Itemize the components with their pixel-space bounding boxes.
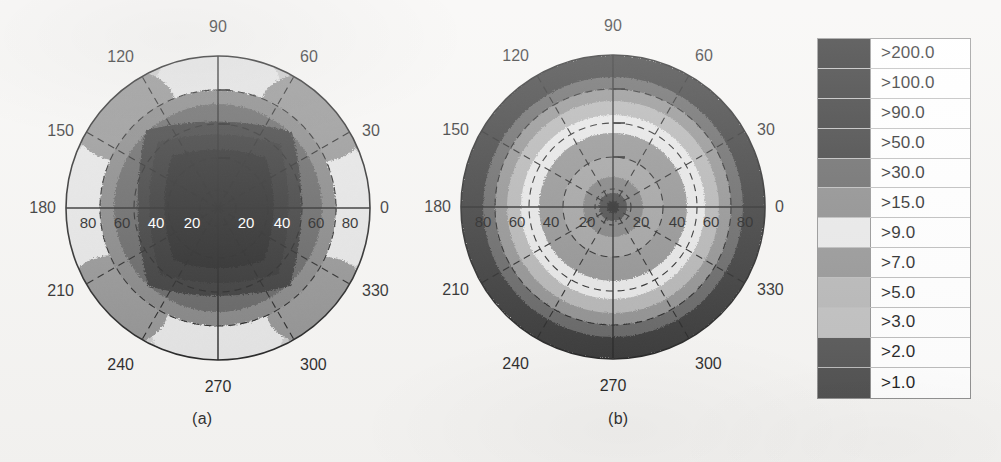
legend-row: >200.0 bbox=[818, 39, 970, 69]
legend-color-swatch bbox=[818, 338, 871, 367]
polar-plot-b: 0 30 60 90 120 150 180 210 240 270 300 3… bbox=[400, 0, 836, 420]
legend-label: >3.0 bbox=[871, 308, 970, 337]
azimuth-label-120: 120 bbox=[502, 47, 529, 64]
legend-label: >1.0 bbox=[871, 368, 970, 398]
radial-label-b-4: 20 bbox=[579, 213, 596, 230]
azimuth-label-210: 210 bbox=[442, 281, 469, 298]
color-legend: >200.0>100.0>90.0>50.0>30.0>15.0>9.0>7.0… bbox=[817, 38, 971, 399]
azimuth-label-300: 300 bbox=[300, 356, 327, 373]
azimuth-label-180: 180 bbox=[29, 199, 56, 216]
legend-color-swatch bbox=[818, 69, 871, 98]
legend-color-swatch bbox=[818, 308, 871, 337]
radial-label-a-1: 80 bbox=[80, 214, 97, 231]
legend-row: >100.0 bbox=[818, 69, 970, 99]
legend-label: >2.0 bbox=[871, 338, 970, 367]
legend-color-swatch bbox=[818, 39, 871, 68]
legend-color-swatch bbox=[818, 218, 871, 247]
legend-row: >7.0 bbox=[818, 248, 970, 278]
legend-color-swatch bbox=[818, 129, 871, 158]
radial-label-a-5: 20 bbox=[238, 214, 255, 231]
legend-row: >90.0 bbox=[818, 99, 970, 129]
legend-label: >15.0 bbox=[871, 188, 970, 217]
azimuth-label-90: 90 bbox=[604, 17, 622, 34]
azimuth-label-240: 240 bbox=[107, 356, 134, 373]
azimuth-label-270: 270 bbox=[600, 377, 627, 394]
legend-color-swatch bbox=[818, 248, 871, 277]
radial-label-b-6: 40 bbox=[669, 213, 686, 230]
radial-label-b-5: 20 bbox=[633, 213, 650, 230]
legend-row: >15.0 bbox=[818, 188, 970, 218]
radial-label-a-8: 80 bbox=[342, 214, 359, 231]
legend-row: >5.0 bbox=[818, 278, 970, 308]
azimuth-label-330: 330 bbox=[362, 282, 389, 299]
legend-label: >5.0 bbox=[871, 278, 970, 307]
legend-label: >200.0 bbox=[871, 39, 970, 68]
azimuth-label-90: 90 bbox=[209, 18, 227, 35]
legend-color-swatch bbox=[818, 159, 871, 188]
azimuth-label-60: 60 bbox=[695, 47, 713, 64]
legend-row: >9.0 bbox=[818, 218, 970, 248]
legend-row: >1.0 bbox=[818, 368, 970, 398]
legend-label: >90.0 bbox=[871, 99, 970, 128]
azimuth-label-240: 240 bbox=[502, 355, 529, 372]
azimuth-label-180: 180 bbox=[424, 198, 451, 215]
legend-label: >100.0 bbox=[871, 69, 970, 98]
legend-label: >30.0 bbox=[871, 159, 970, 188]
azimuth-label-0: 0 bbox=[380, 199, 389, 216]
azimuth-label-300: 300 bbox=[695, 355, 722, 372]
legend-color-swatch bbox=[818, 368, 871, 398]
azimuth-label-30: 30 bbox=[757, 121, 775, 138]
azimuth-label-150: 150 bbox=[47, 122, 74, 139]
radial-label-a-4: 20 bbox=[184, 214, 201, 231]
figure-root: 0 30 60 90 120 150 180 210 240 270 300 3… bbox=[0, 0, 1001, 462]
legend-row: >30.0 bbox=[818, 159, 970, 189]
legend-color-swatch bbox=[818, 278, 871, 307]
polar-plot-a: 0 30 60 90 120 150 180 210 240 270 300 3… bbox=[0, 0, 436, 420]
azimuth-label-150: 150 bbox=[442, 121, 469, 138]
radial-label-b-3: 40 bbox=[543, 213, 560, 230]
azimuth-label-120: 120 bbox=[107, 48, 134, 65]
azimuth-label-270: 270 bbox=[205, 378, 232, 395]
radial-label-b-8: 80 bbox=[737, 213, 754, 230]
azimuth-label-330: 330 bbox=[757, 281, 784, 298]
radial-label-b-2: 60 bbox=[509, 213, 526, 230]
azimuth-label-30: 30 bbox=[362, 122, 380, 139]
legend-row: >2.0 bbox=[818, 338, 970, 368]
caption-panel-a: (a) bbox=[192, 410, 212, 428]
legend-label: >9.0 bbox=[871, 218, 970, 247]
legend-label: >7.0 bbox=[871, 248, 970, 277]
caption-panel-b: (b) bbox=[608, 410, 628, 428]
legend-color-swatch bbox=[818, 99, 871, 128]
legend-row: >3.0 bbox=[818, 308, 970, 338]
azimuth-label-210: 210 bbox=[47, 282, 74, 299]
radial-label-a-2: 60 bbox=[114, 214, 131, 231]
radial-label-a-3: 40 bbox=[148, 214, 165, 231]
radial-label-a-6: 40 bbox=[274, 214, 291, 231]
legend-label: >50.0 bbox=[871, 129, 970, 158]
radial-label-b-7: 60 bbox=[703, 213, 720, 230]
azimuth-label-60: 60 bbox=[300, 48, 318, 65]
azimuth-label-0: 0 bbox=[775, 198, 784, 215]
legend-color-swatch bbox=[818, 188, 871, 217]
legend-row: >50.0 bbox=[818, 129, 970, 159]
radial-label-a-7: 60 bbox=[308, 214, 325, 231]
radial-label-b-1: 80 bbox=[475, 213, 492, 230]
